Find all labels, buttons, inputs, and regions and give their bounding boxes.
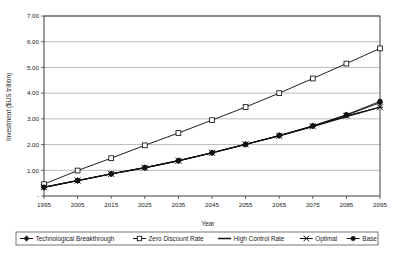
y-tick-label: 5.00 [27, 64, 40, 71]
marker-open-square [109, 156, 114, 161]
chart-background [0, 0, 394, 266]
marker-open-square [142, 143, 147, 148]
y-tick-label: 2.00 [27, 141, 40, 148]
x-tick-label: 1995 [37, 201, 51, 208]
y-tick-label: 7.00 [27, 12, 40, 19]
x-tick-label: 2095 [373, 201, 387, 208]
chart-legend: Technological BreakthroughZero Discount … [16, 232, 378, 245]
marker-open-square [176, 131, 181, 136]
marker-open-square [310, 76, 315, 81]
y-tick-label: 1.00 [27, 167, 40, 174]
marker-circle [243, 142, 248, 147]
marker-circle [142, 165, 147, 170]
x-tick-label: 2025 [138, 201, 152, 208]
marker-open-square [243, 105, 248, 110]
y-tick-label: 6.00 [27, 38, 40, 45]
marker-circle [176, 158, 181, 163]
legend-label: Zero Discount Rate [148, 235, 203, 242]
legend-label: Base [362, 235, 377, 242]
marker-open-square [210, 118, 215, 123]
x-tick-label: 2085 [340, 201, 354, 208]
marker-circle [42, 185, 47, 190]
marker-open-square [344, 61, 349, 66]
chart-container: -1.002.003.004.005.006.007.00 1995200520… [0, 0, 394, 266]
x-tick-label: 2005 [71, 201, 85, 208]
legend-label: Technological Breakthrough [36, 235, 115, 243]
x-tick-label: 2045 [205, 201, 219, 208]
legend-label: Optimal [315, 235, 337, 243]
x-axis-title: Year [202, 220, 216, 227]
y-axis-title: Investment ($US trillion) [5, 73, 13, 141]
marker-circle [210, 150, 215, 155]
x-tick-label: 2075 [306, 201, 320, 208]
marker-circle [344, 112, 349, 117]
y-tick-label: 4.00 [27, 89, 40, 96]
y-tick-label: 3.00 [27, 115, 40, 122]
marker-circle [75, 178, 80, 183]
x-tick-label: 2015 [104, 201, 118, 208]
marker-circle [310, 123, 315, 128]
legend-label: High Control Rate [234, 235, 285, 243]
marker-open-square [277, 91, 282, 96]
marker-open-square [137, 236, 141, 240]
y-tick-label: - [37, 192, 39, 199]
investment-line-chart: -1.002.003.004.005.006.007.00 1995200520… [0, 0, 394, 266]
marker-open-square [75, 168, 80, 173]
x-tick-label: 2065 [272, 201, 286, 208]
marker-circle [277, 133, 282, 138]
x-tick-label: 2055 [239, 201, 253, 208]
marker-circle [351, 236, 355, 240]
x-tick-label: 2035 [172, 201, 186, 208]
marker-circle [378, 99, 383, 104]
marker-open-square [378, 46, 383, 51]
marker-circle [109, 171, 114, 176]
